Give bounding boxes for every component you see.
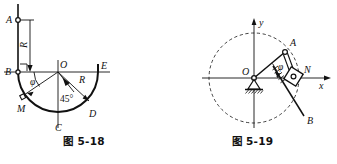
dimension-R-arrowhead xyxy=(27,65,32,72)
label-D: D xyxy=(88,108,97,119)
point-A-marker xyxy=(16,18,21,23)
label-B: B xyxy=(5,66,11,77)
label-A: A xyxy=(5,14,13,25)
label-phi: φ xyxy=(30,77,35,87)
fixed-support-triangle xyxy=(248,80,260,90)
figure-5-19: O A N B x y φ 图 5-19 xyxy=(168,0,337,164)
label-N: N xyxy=(303,64,312,75)
pin-joint-N xyxy=(291,74,296,79)
label-R-radial: R xyxy=(78,74,85,85)
label-C: C xyxy=(55,122,62,133)
label-y-axis: y xyxy=(258,17,264,28)
figure-5-18: A B M C D E O R R φ 45° 图 5-18 xyxy=(0,0,168,164)
label-R-vertical: R xyxy=(18,42,29,49)
figure-5-18-caption: 图 5-18 xyxy=(0,133,168,148)
y-axis-arrowhead xyxy=(252,18,257,25)
label-M: M xyxy=(16,103,26,114)
label-x-axis: x xyxy=(318,80,324,91)
label-A: A xyxy=(289,37,297,48)
label-phi: φ xyxy=(278,62,283,72)
right-angle-marker-B xyxy=(20,64,27,71)
pin-joint-A xyxy=(283,50,288,55)
label-angle-45: 45° xyxy=(60,94,74,104)
label-B: B xyxy=(307,115,313,126)
figure-5-19-caption: 图 5-19 xyxy=(168,133,337,148)
x-axis-arrowhead xyxy=(324,76,331,81)
label-E: E xyxy=(100,60,107,71)
point-B-marker xyxy=(16,70,20,74)
label-O: O xyxy=(242,66,249,77)
label-O: O xyxy=(60,59,67,70)
figure-page: A B M C D E O R R φ 45° 图 5-18 xyxy=(0,0,337,164)
